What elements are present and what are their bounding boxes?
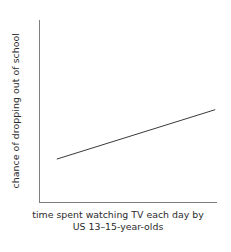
y-axis-label: chance of dropping out of school: [11, 33, 20, 188]
axes-svg: [39, 20, 217, 203]
trend-line: [57, 110, 215, 159]
chart-figure: chance of dropping out of school time sp…: [0, 0, 231, 252]
y-axis-label-container: chance of dropping out of school: [0, 20, 32, 202]
x-axis-label-line-2: US 13–15-year-olds: [20, 221, 216, 233]
x-axis-label-line-1: time spent watching TV each day by: [20, 209, 216, 221]
x-axis-label: time spent watching TV each day by US 13…: [20, 209, 216, 233]
plot-area: [39, 20, 217, 203]
